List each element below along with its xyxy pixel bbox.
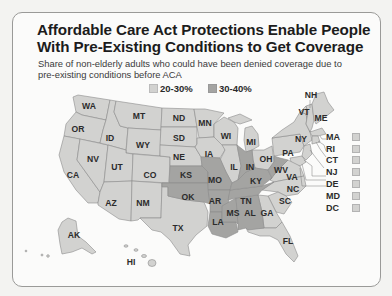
label-nh: NH: [305, 90, 317, 100]
label-id: ID: [106, 133, 115, 143]
label-fl: FL: [283, 236, 294, 246]
swatch: [352, 145, 360, 153]
label-ca: CA: [67, 170, 79, 180]
label-ok: OK: [182, 192, 196, 202]
state-ma: [310, 128, 326, 136]
label-wv: WV: [274, 165, 288, 175]
label-hi: HI: [127, 257, 136, 267]
label-ia: IA: [205, 149, 214, 159]
label-ne: NE: [173, 152, 185, 162]
label-nd: ND: [173, 113, 185, 123]
label-mn: MN: [198, 118, 211, 128]
label-ak: AK: [68, 230, 81, 240]
label-or: OR: [72, 124, 86, 134]
small-state-md: MD: [326, 190, 360, 202]
small-state-de: DE: [326, 178, 360, 190]
label-mo: MO: [208, 175, 222, 185]
label-pa: PA: [282, 148, 293, 158]
label-nv: NV: [87, 154, 99, 164]
swatch: [352, 156, 360, 164]
state-ct-ri: [312, 136, 320, 144]
small-state-nj: NJ: [326, 166, 360, 178]
swatch: [352, 133, 360, 141]
label-az: AZ: [105, 198, 116, 208]
swatch: [352, 168, 360, 176]
label-nc: NC: [287, 184, 299, 194]
label-oh: OH: [260, 154, 273, 164]
label-ut: UT: [111, 162, 123, 172]
label-mt: MT: [133, 111, 146, 121]
label-ky: KY: [250, 176, 262, 186]
label-mi: MI: [246, 137, 256, 147]
label-wy: WY: [136, 140, 150, 150]
label-ms: MS: [227, 208, 240, 218]
label-co: CO: [144, 170, 157, 180]
label-ks: KS: [180, 170, 192, 180]
label-wa: WA: [82, 101, 96, 111]
label-nm: NM: [136, 198, 149, 208]
small-state-ct: CT: [326, 155, 360, 167]
state-hi-big: [148, 260, 156, 267]
label-sd: SD: [173, 133, 185, 143]
label-sc: SC: [279, 196, 291, 206]
label-me: ME: [315, 113, 328, 123]
swatch: [352, 192, 360, 200]
swatch: [352, 180, 360, 188]
label-tn: TN: [240, 196, 251, 206]
label-va: VA: [286, 172, 297, 182]
label-il: IL: [230, 162, 238, 172]
label-tx: TX: [173, 223, 184, 233]
label-vt: VT: [299, 107, 311, 117]
label-ny: NY: [295, 134, 307, 144]
small-state-dc: DC: [326, 202, 360, 214]
label-in: IN: [246, 162, 255, 172]
small-state-ma: MA: [326, 131, 360, 143]
label-wi: WI: [221, 131, 232, 141]
small-state-ri: RI: [326, 143, 360, 155]
label-la: LA: [212, 217, 223, 227]
label-ga: GA: [261, 208, 274, 218]
small-states-legend: MA RI CT NJ DE MD DC: [326, 131, 360, 214]
swatch: [352, 204, 360, 212]
label-ar: AR: [209, 196, 222, 206]
label-al: AL: [244, 208, 255, 218]
